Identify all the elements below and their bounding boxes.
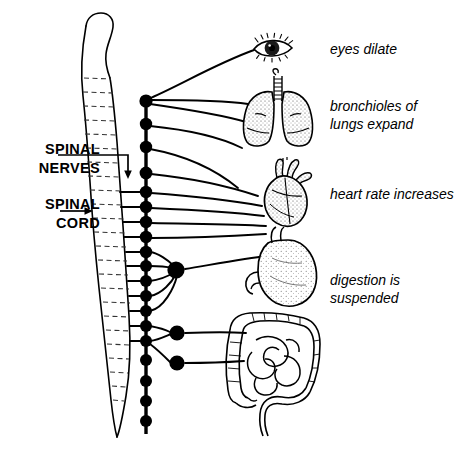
mesenteric-ganglia-group — [150, 325, 246, 370]
label-spinal-cord: SPINAL CORD — [8, 195, 100, 232]
sympathetic-chain — [139, 94, 152, 434]
stomach-organ — [246, 227, 317, 306]
sympathetic-nervous-system-diagram: SPINAL NERVES SPINAL CORD eyes dilate br… — [0, 0, 461, 451]
label-bronchioles-of-lungs-expand: bronchioles of lungs expand — [330, 98, 417, 133]
label-digestion-is-suspended: digestion is suspended — [330, 272, 400, 307]
heart-organ — [264, 157, 311, 226]
celiac-ganglion-group — [167, 256, 266, 279]
nerve-to-large-intestine — [185, 332, 246, 333]
label-spinal-nerves: SPINAL NERVES — [8, 140, 100, 177]
lungs-organ — [243, 69, 312, 146]
nerve-to-lower-bowel — [185, 361, 244, 363]
celiac-ganglion — [167, 261, 184, 278]
chain-ganglia — [139, 94, 152, 427]
label-heart-rate-increases: heart rate increases — [330, 186, 454, 204]
inferior-mesenteric-ganglion — [169, 355, 184, 370]
nerve-to-eye — [148, 50, 254, 99]
label-eyes-dilate: eyes dilate — [330, 41, 397, 59]
nerve-to-heart — [151, 174, 266, 238]
intestines-organ — [226, 313, 320, 436]
eye-organ — [254, 33, 293, 62]
nerve-to-stomach — [185, 256, 266, 269]
splanchnic-nerves — [150, 252, 177, 311]
superior-mesenteric-ganglion — [169, 325, 184, 340]
